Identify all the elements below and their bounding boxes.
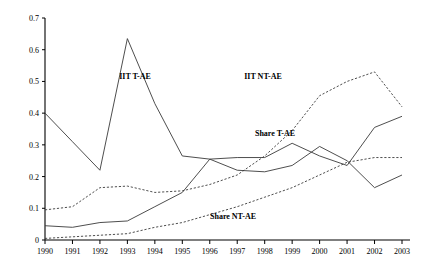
x-tick-label: 2000 (312, 247, 328, 256)
y-tick-label: 0.3 (29, 141, 39, 150)
x-tick-label: 1995 (174, 247, 190, 256)
x-tick-label: 1993 (119, 247, 135, 256)
y-tick-label: 0.4 (29, 109, 39, 118)
series-label-iit-t-ae: IIT T-AE (119, 72, 151, 81)
series-annotations: IIT T-AEIIT NT-AEShare T-AEShare NT-AE (119, 72, 295, 221)
y-tick-label: 0.1 (29, 204, 39, 213)
series-label-share-nt-ae: Share NT-AE (210, 212, 256, 221)
series-label-iit-nt-ae: IIT NT-AE (244, 72, 282, 81)
series-lines (45, 39, 402, 239)
x-tick-label: 1997 (229, 247, 245, 256)
series-label-share-t-ae: Share T-AE (255, 129, 295, 138)
y-tick-label: 0.6 (29, 46, 39, 55)
series-line-iit-nt-ae (45, 72, 402, 210)
y-axis: 00.10.20.30.40.50.60.7 (29, 14, 45, 245)
y-tick-label: 0.2 (29, 173, 39, 182)
x-tick-label: 2002 (367, 247, 383, 256)
x-tick-label: 2003 (394, 247, 410, 256)
series-line-iit-t-ae (45, 39, 402, 188)
x-tick-label: 1991 (64, 247, 80, 256)
line-chart: 00.10.20.30.40.50.60.7 19901991199219931… (0, 0, 430, 275)
x-tick-label: 1992 (92, 247, 108, 256)
y-tick-label: 0.5 (29, 77, 39, 86)
x-tick-label: 2001 (339, 247, 355, 256)
x-tick-label: 1999 (284, 247, 300, 256)
y-tick-label: 0.7 (29, 14, 39, 23)
series-line-share-nt-ae (45, 158, 402, 239)
x-tick-label: 1990 (37, 247, 53, 256)
x-tick-label: 1994 (147, 247, 163, 256)
x-tick-label: 1996 (202, 247, 218, 256)
y-tick-label: 0 (35, 236, 39, 245)
x-tick-label: 1998 (257, 247, 273, 256)
x-axis: 1990199119921993199419951996199719981999… (37, 240, 410, 256)
chart-canvas: 00.10.20.30.40.50.60.7 19901991199219931… (0, 0, 430, 275)
